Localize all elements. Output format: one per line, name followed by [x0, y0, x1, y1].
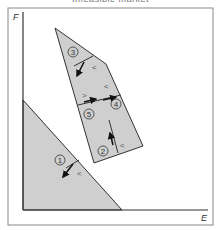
e-axis-label: E: [201, 213, 208, 223]
svg-text:3: 3: [71, 48, 76, 57]
diagram-canvas: 3 5 4 2 1 < > < < < F E: [0, 0, 221, 230]
svg-text:4: 4: [114, 100, 119, 109]
inequality-mark-2: <: [120, 141, 125, 150]
svg-text:1: 1: [58, 156, 63, 165]
inequality-mark-5: >: [82, 91, 87, 100]
svg-text:2: 2: [101, 147, 106, 156]
svg-text:5: 5: [87, 110, 92, 119]
inequality-mark-3: <: [92, 63, 97, 72]
feasible-region-polygon: [55, 28, 143, 163]
f-axis-label: F: [13, 12, 19, 22]
inequality-mark-4: <: [104, 82, 109, 91]
inequality-mark-1: <: [77, 169, 82, 178]
